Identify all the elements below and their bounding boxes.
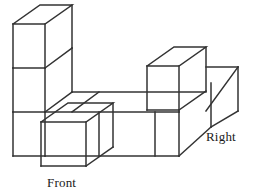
cube-figure: Front Right [0,0,256,191]
isometric-cube-drawing [0,0,256,191]
front-label: Front [47,176,76,189]
right-label: Right [206,130,236,143]
